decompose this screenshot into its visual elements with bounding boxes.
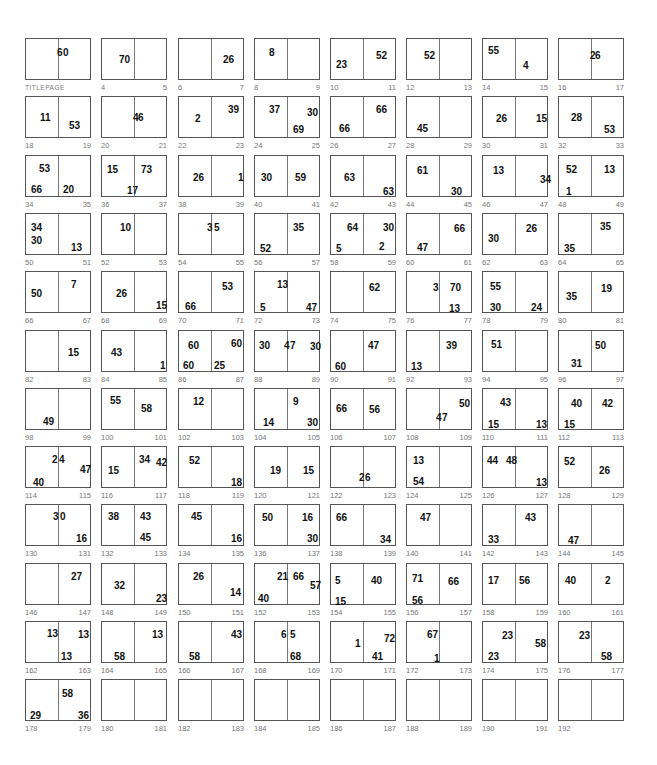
page-spread[interactable]: 2352 bbox=[330, 38, 396, 80]
page-spread[interactable]: 52 bbox=[406, 38, 472, 80]
page-spread[interactable]: 1354 bbox=[406, 446, 472, 488]
page-spread[interactable]: 1334 bbox=[482, 155, 548, 197]
page-spread[interactable] bbox=[254, 679, 320, 721]
page-spread[interactable]: 45 bbox=[406, 96, 472, 138]
page-spread[interactable]: 26 bbox=[178, 38, 244, 80]
page-spread[interactable]: 26 bbox=[558, 38, 624, 80]
page-spread[interactable]: 12 bbox=[178, 388, 244, 430]
page-spread[interactable]: 431 bbox=[101, 330, 167, 372]
page-spread[interactable]: 404215 bbox=[558, 388, 624, 430]
page-spread[interactable] bbox=[406, 679, 472, 721]
page-spread[interactable]: 6047 bbox=[330, 330, 396, 372]
page-spread[interactable]: 4516 bbox=[178, 504, 244, 546]
page-spread[interactable]: 60 bbox=[25, 38, 91, 80]
left-page-number: 86 bbox=[178, 376, 186, 384]
page-spread[interactable]: 60606025 bbox=[178, 330, 244, 372]
page-spread[interactable]: 10 bbox=[101, 213, 167, 255]
page-spread[interactable]: 17241 bbox=[330, 621, 396, 663]
left-page-number: 132 bbox=[101, 550, 114, 558]
page-spread[interactable]: 235823 bbox=[482, 621, 548, 663]
page-spread[interactable]: 26 bbox=[330, 446, 396, 488]
page-spread[interactable]: 501630 bbox=[254, 504, 320, 546]
page-spread[interactable]: 507 bbox=[25, 271, 91, 313]
page-spread[interactable]: 5235 bbox=[254, 213, 320, 255]
spine-divider bbox=[211, 447, 212, 487]
page-spread[interactable]: 536620 bbox=[25, 155, 91, 197]
page-spread[interactable]: 2614 bbox=[178, 563, 244, 605]
page-spread[interactable]: 553024 bbox=[482, 271, 548, 313]
page-spread[interactable]: 13547 bbox=[254, 271, 320, 313]
page-spread[interactable]: 5813 bbox=[101, 621, 167, 663]
page-spread[interactable]: 1153 bbox=[25, 96, 91, 138]
page-spread[interactable]: 643052 bbox=[330, 213, 396, 255]
page-spread[interactable]: 239 bbox=[178, 96, 244, 138]
page-spread[interactable]: 3535 bbox=[558, 213, 624, 255]
page-spread[interactable]: 2853 bbox=[558, 96, 624, 138]
page-spread[interactable]: 5843 bbox=[178, 621, 244, 663]
page-spread[interactable]: 15 bbox=[25, 330, 91, 372]
page-spread[interactable]: 4750 bbox=[406, 388, 472, 430]
page-spread[interactable]: 554 bbox=[482, 38, 548, 80]
page-spread[interactable]: 1339 bbox=[406, 330, 472, 372]
page-spread[interactable]: 6363 bbox=[330, 155, 396, 197]
page-spread[interactable]: 47 bbox=[558, 504, 624, 546]
page-spread[interactable]: 444813 bbox=[482, 446, 548, 488]
page-spread[interactable]: 4766 bbox=[406, 213, 472, 255]
page-spread[interactable]: 716656 bbox=[406, 563, 472, 605]
page-spread[interactable]: 6666 bbox=[330, 96, 396, 138]
page-spread[interactable]: 5558 bbox=[101, 388, 167, 430]
page-spread[interactable]: 6653 bbox=[178, 271, 244, 313]
page-spread[interactable]: 3150 bbox=[558, 330, 624, 372]
page-spread[interactable] bbox=[482, 679, 548, 721]
page-spread[interactable]: 46 bbox=[101, 96, 167, 138]
page-spread[interactable]: 35 bbox=[178, 213, 244, 255]
page-spread[interactable]: 431513 bbox=[482, 388, 548, 430]
left-page-number: TITLEPAGE bbox=[25, 84, 65, 92]
page-spread[interactable] bbox=[558, 679, 624, 721]
page-spread[interactable]: 70 bbox=[101, 38, 167, 80]
page-spread[interactable]: 2615 bbox=[101, 271, 167, 313]
page-spread[interactable]: 51 bbox=[482, 330, 548, 372]
page-spread[interactable]: 582936 bbox=[25, 679, 91, 721]
page-spread[interactable]: 671 bbox=[406, 621, 472, 663]
page-spread[interactable] bbox=[330, 679, 396, 721]
page-spread[interactable] bbox=[178, 679, 244, 721]
page-spread[interactable]: 49 bbox=[25, 388, 91, 430]
page-spread[interactable]: 244740 bbox=[25, 446, 91, 488]
page-spread[interactable]: 8 bbox=[254, 38, 320, 80]
page-spread[interactable]: 3343 bbox=[482, 504, 548, 546]
page-spread[interactable]: 131313 bbox=[25, 621, 91, 663]
page-spread[interactable]: 3519 bbox=[558, 271, 624, 313]
page-spread[interactable]: 343013 bbox=[25, 213, 91, 255]
page-spread[interactable]: 27 bbox=[25, 563, 91, 605]
page-spread[interactable]: 6568 bbox=[254, 621, 320, 663]
page-spread[interactable]: 14930 bbox=[254, 388, 320, 430]
page-spread[interactable]: 1915 bbox=[254, 446, 320, 488]
page-spread[interactable]: 384345 bbox=[101, 504, 167, 546]
page-spread[interactable]: 402 bbox=[558, 563, 624, 605]
page-spread[interactable]: 47 bbox=[406, 504, 472, 546]
page-spread[interactable] bbox=[101, 679, 167, 721]
page-spread[interactable]: 261 bbox=[178, 155, 244, 197]
page-spread[interactable]: 54015 bbox=[330, 563, 396, 605]
page-spread[interactable]: 37013 bbox=[406, 271, 472, 313]
page-spread[interactable]: 5218 bbox=[178, 446, 244, 488]
page-spread[interactable]: 3059 bbox=[254, 155, 320, 197]
page-spread[interactable]: 52131 bbox=[558, 155, 624, 197]
page-spread[interactable]: 3223 bbox=[101, 563, 167, 605]
page-spread[interactable]: 6656 bbox=[330, 388, 396, 430]
page-spread[interactable]: 6634 bbox=[330, 504, 396, 546]
page-spread[interactable]: 21665740 bbox=[254, 563, 320, 605]
page-spread[interactable]: 62 bbox=[330, 271, 396, 313]
page-spread[interactable]: 1756 bbox=[482, 563, 548, 605]
page-spread[interactable]: 2615 bbox=[482, 96, 548, 138]
page-spread[interactable]: 153442 bbox=[101, 446, 167, 488]
page-spread[interactable]: 373069 bbox=[254, 96, 320, 138]
page-spread[interactable]: 157317 bbox=[101, 155, 167, 197]
page-spread[interactable]: 5226 bbox=[558, 446, 624, 488]
page-spread[interactable]: 2358 bbox=[558, 621, 624, 663]
page-spread[interactable]: 6130 bbox=[406, 155, 472, 197]
page-spread[interactable]: 3016 bbox=[25, 504, 91, 546]
page-spread[interactable]: 304730 bbox=[254, 330, 320, 372]
page-spread[interactable]: 3026 bbox=[482, 213, 548, 255]
